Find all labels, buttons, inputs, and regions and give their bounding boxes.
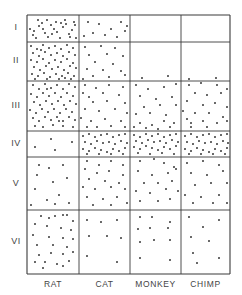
- dot: [126, 142, 128, 144]
- dot: [173, 122, 175, 124]
- row-label-II: II: [6, 55, 26, 65]
- dot: [51, 68, 53, 70]
- dot: [137, 152, 139, 154]
- dot: [202, 149, 204, 151]
- dot: [226, 120, 228, 122]
- dot: [222, 170, 224, 172]
- dot: [106, 100, 108, 102]
- dot: [110, 153, 112, 155]
- dot: [133, 146, 135, 148]
- dot: [48, 95, 50, 97]
- dot: [72, 126, 74, 128]
- dot: [206, 126, 208, 128]
- dot: [61, 75, 63, 77]
- dot: [68, 83, 70, 85]
- dot: [58, 78, 60, 80]
- dot: [50, 87, 52, 89]
- dot: [226, 106, 228, 108]
- cell-IV-monkey: [133, 133, 179, 155]
- dot: [46, 88, 48, 90]
- dot: [124, 133, 126, 135]
- dot: [110, 186, 112, 188]
- dot: [38, 88, 40, 90]
- cell-IV-chimp: [184, 133, 229, 155]
- dot: [149, 153, 151, 155]
- dot: [116, 261, 118, 263]
- dot: [42, 126, 44, 128]
- dot: [88, 96, 90, 98]
- dot: [92, 101, 94, 103]
- dot: [218, 194, 220, 196]
- dot: [190, 126, 192, 128]
- dot: [163, 162, 165, 164]
- dot: [66, 214, 68, 216]
- dot: [54, 215, 56, 217]
- dot: [210, 182, 212, 184]
- dot: [151, 216, 153, 218]
- dot: [153, 239, 155, 241]
- dot: [169, 134, 171, 136]
- dot: [82, 92, 84, 94]
- dot: [98, 164, 100, 166]
- cell-I-rat: [29, 19, 77, 39]
- dot: [38, 164, 40, 166]
- dot: [29, 109, 31, 111]
- dot: [74, 24, 76, 26]
- cell-II-rat: [30, 44, 77, 80]
- dot: [86, 219, 88, 221]
- dot: [184, 194, 186, 196]
- dot: [87, 21, 89, 23]
- dot: [184, 148, 186, 150]
- dot: [73, 21, 75, 23]
- dot: [59, 37, 61, 39]
- dot: [88, 133, 90, 135]
- dot: [218, 219, 220, 221]
- dot: [214, 102, 216, 104]
- dot: [151, 124, 153, 126]
- dot: [60, 227, 62, 229]
- dot: [84, 46, 86, 48]
- dot: [60, 96, 62, 98]
- dot: [29, 28, 31, 30]
- dot: [104, 34, 106, 36]
- dot: [169, 259, 171, 261]
- dot: [124, 102, 126, 104]
- dot: [124, 74, 126, 76]
- dot: [124, 188, 126, 190]
- dot: [182, 110, 184, 112]
- dot: [155, 98, 157, 100]
- cell-V-monkey: [135, 158, 179, 202]
- dot: [75, 103, 77, 105]
- dot: [139, 200, 141, 202]
- dot: [38, 25, 40, 27]
- dot: [167, 227, 169, 229]
- dot: [75, 37, 77, 39]
- dot: [55, 73, 57, 75]
- row-label-V: V: [6, 178, 26, 188]
- dot: [126, 25, 128, 27]
- dot: [86, 68, 88, 70]
- dot: [46, 225, 48, 227]
- dot: [173, 153, 175, 155]
- dot: [118, 150, 120, 152]
- dot: [42, 28, 44, 30]
- dot: [222, 140, 224, 142]
- dot: [186, 100, 188, 102]
- dot: [71, 29, 73, 31]
- dot: [163, 86, 165, 88]
- dot: [96, 172, 98, 174]
- dot: [54, 92, 56, 94]
- dot: [94, 61, 96, 63]
- dot: [38, 254, 40, 256]
- dot: [38, 120, 40, 122]
- dot: [30, 204, 32, 206]
- dot: [124, 147, 126, 149]
- dot: [36, 48, 38, 50]
- dot: [114, 108, 116, 110]
- dot: [60, 61, 62, 63]
- dot: [124, 126, 126, 128]
- dot: [200, 153, 202, 155]
- dot: [226, 147, 228, 149]
- dot: [116, 219, 118, 221]
- dot: [54, 59, 56, 61]
